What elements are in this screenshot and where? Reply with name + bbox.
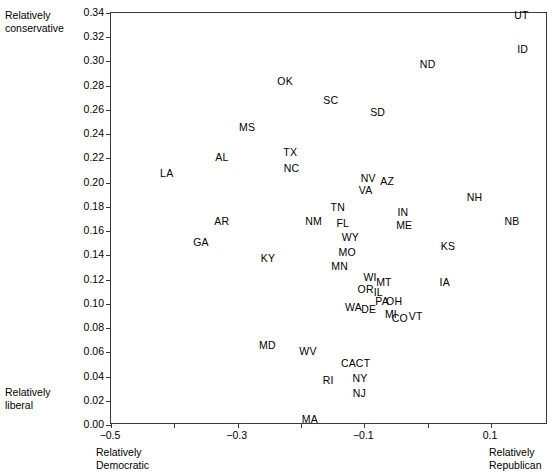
data-point-fl: FL xyxy=(336,217,349,228)
data-point-or: OR xyxy=(358,284,374,295)
axis-note-democratic-line2: Democratic xyxy=(96,459,149,472)
axis-note-republican-line2: Republican xyxy=(489,459,542,472)
y-tick-mark xyxy=(106,352,111,353)
axis-note-democratic-line1: Relatively xyxy=(96,446,149,459)
y-tick-mark xyxy=(106,183,111,184)
y-tick-mark xyxy=(106,207,111,208)
data-point-sc: SC xyxy=(323,95,338,106)
data-point-nj: NJ xyxy=(353,388,366,399)
x-tick-label: 0.1 xyxy=(483,430,498,441)
axis-note-liberal-line2: liberal xyxy=(5,399,51,412)
data-point-ms: MS xyxy=(239,122,255,133)
x-tick-mark-minor xyxy=(174,423,175,428)
data-point-wy: WY xyxy=(342,232,359,243)
y-tick-mark xyxy=(106,110,111,111)
y-tick-label: 0.02 xyxy=(84,395,104,406)
data-point-ar: AR xyxy=(214,216,229,227)
data-point-nv: NV xyxy=(361,173,376,184)
x-tick-mark xyxy=(364,423,365,428)
y-tick-label: 0.28 xyxy=(84,80,104,91)
y-tick-label: 0.24 xyxy=(84,128,104,139)
y-tick-label: 0.32 xyxy=(84,31,104,42)
data-point-nd: ND xyxy=(420,59,436,70)
data-point-tx: TX xyxy=(283,147,297,158)
data-point-vt: VT xyxy=(409,311,423,322)
data-point-wa: WA xyxy=(345,302,362,313)
data-point-ma: MA xyxy=(302,414,318,425)
x-tick-label: −0.5 xyxy=(100,430,121,441)
data-point-tn: TN xyxy=(331,202,345,213)
y-tick-mark xyxy=(106,401,111,402)
y-tick-label: 0.12 xyxy=(84,274,104,285)
data-point-ga: GA xyxy=(193,237,209,248)
data-point-md: MD xyxy=(259,340,276,351)
x-tick-mark xyxy=(491,423,492,428)
y-tick-mark xyxy=(106,255,111,256)
data-point-wv: WV xyxy=(299,346,316,357)
axis-note-conservative-line2: conservative xyxy=(5,22,64,35)
axis-note-republican-line1: Relatively xyxy=(489,446,542,459)
x-tick-mark-minor xyxy=(428,423,429,428)
y-tick-label: 0.08 xyxy=(84,322,104,333)
y-tick-label: 0.30 xyxy=(84,55,104,66)
y-tick-mark xyxy=(106,377,111,378)
data-point-ia: IA xyxy=(440,277,450,288)
y-axis-tick-labels: 0.000.020.040.060.080.100.120.140.160.18… xyxy=(62,12,104,424)
y-tick-mark xyxy=(106,280,111,281)
data-point-ok: OK xyxy=(277,76,293,87)
x-tick-mark xyxy=(111,423,112,428)
y-tick-label: 0.00 xyxy=(84,419,104,430)
data-point-ca: CA xyxy=(341,358,356,369)
y-tick-mark xyxy=(106,86,111,87)
x-tick-label: −0.3 xyxy=(226,430,247,441)
data-point-la: LA xyxy=(160,168,173,179)
data-point-co: CO xyxy=(392,313,408,324)
data-point-nm: NM xyxy=(305,216,322,227)
x-tick-mark xyxy=(238,423,239,428)
data-point-az: AZ xyxy=(380,176,394,187)
data-point-ct: CT xyxy=(356,358,370,369)
y-tick-label: 0.04 xyxy=(84,371,104,382)
data-point-in: IN xyxy=(398,206,409,217)
y-tick-mark xyxy=(106,61,111,62)
y-tick-mark xyxy=(106,328,111,329)
y-tick-label: 0.14 xyxy=(84,249,104,260)
data-point-de: DE xyxy=(361,303,376,314)
y-tick-label: 0.22 xyxy=(84,152,104,163)
data-point-id: ID xyxy=(517,44,528,55)
data-point-ky: KY xyxy=(261,253,275,264)
x-tick-label: −0.1 xyxy=(353,430,374,441)
y-tick-label: 0.26 xyxy=(84,104,104,115)
y-tick-mark xyxy=(106,13,111,14)
data-point-mn: MN xyxy=(331,261,348,272)
y-tick-label: 0.34 xyxy=(84,7,104,18)
y-tick-label: 0.16 xyxy=(84,225,104,236)
data-point-ut: UT xyxy=(514,10,528,21)
plot-area: UTIDNDOKSCSDMSTXALNCLANVAZVANHTNINARNMNB… xyxy=(110,12,547,424)
y-tick-mark xyxy=(106,304,111,305)
y-tick-label: 0.10 xyxy=(84,298,104,309)
axis-note-democratic: Relatively Democratic xyxy=(96,446,149,471)
data-point-wi: WI xyxy=(363,272,376,283)
data-point-nb: NB xyxy=(504,216,519,227)
data-point-nh: NH xyxy=(467,192,483,203)
axis-note-liberal: Relatively liberal xyxy=(5,386,51,411)
data-point-nc: NC xyxy=(284,163,300,174)
data-point-oh: OH xyxy=(386,296,402,307)
axis-note-republican: Relatively Republican xyxy=(489,446,542,471)
data-point-ri: RI xyxy=(323,375,334,386)
data-point-me: ME xyxy=(396,220,412,231)
data-point-sd: SD xyxy=(370,107,385,118)
scatter-plot-figure: Relatively conservative Relatively liber… xyxy=(0,0,559,472)
y-tick-mark xyxy=(106,37,111,38)
data-point-al: AL xyxy=(215,152,228,163)
y-tick-label: 0.18 xyxy=(84,201,104,212)
y-tick-mark xyxy=(106,158,111,159)
y-tick-label: 0.06 xyxy=(84,346,104,357)
y-tick-label: 0.20 xyxy=(84,177,104,188)
axis-note-conservative: Relatively conservative xyxy=(5,9,64,34)
axis-note-conservative-line1: Relatively xyxy=(5,9,64,22)
x-axis-tick-labels: −0.5−0.3−0.10.1 xyxy=(0,430,559,444)
y-tick-mark xyxy=(106,134,111,135)
data-point-va: VA xyxy=(359,185,373,196)
